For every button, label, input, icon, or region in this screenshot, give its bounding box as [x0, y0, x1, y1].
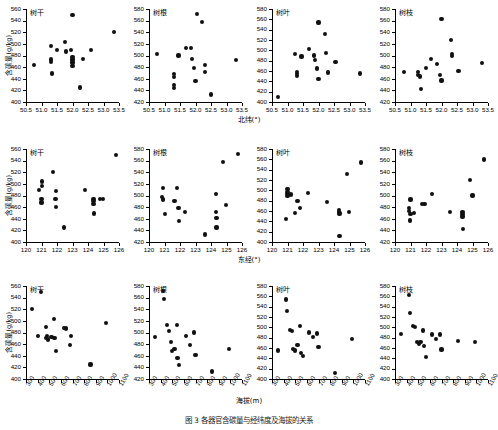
- data-point: [413, 325, 417, 329]
- data-point: [70, 13, 74, 17]
- y-tick: [269, 338, 272, 339]
- data-point: [101, 197, 105, 201]
- data-point: [313, 58, 317, 62]
- data-point: [172, 86, 176, 90]
- x-tick-label: 300: [25, 375, 36, 387]
- y-tick: [23, 161, 26, 162]
- data-point: [161, 198, 165, 202]
- y-tick-label: 440: [246, 78, 267, 84]
- data-point: [358, 71, 362, 75]
- data-point: [337, 234, 341, 238]
- y-axis-line: [149, 9, 150, 102]
- y-tick-label: 480: [246, 57, 267, 63]
- x-tick-label: 700: [318, 375, 329, 387]
- data-point: [324, 51, 328, 55]
- y-tick-label: 560: [0, 283, 21, 289]
- y-tick-label: 580: [369, 6, 390, 12]
- y-tick-label: 520: [369, 41, 390, 47]
- y-tick: [146, 219, 149, 220]
- x-tick-label: 800: [329, 375, 340, 387]
- y-tick: [146, 309, 149, 310]
- x-tick-label: 800: [83, 375, 94, 387]
- y-tick: [269, 40, 272, 41]
- data-point: [192, 330, 196, 334]
- y-tick: [146, 90, 149, 91]
- panel-title: 树枝: [399, 10, 413, 17]
- y-tick-label: 440: [123, 227, 144, 233]
- data-point: [193, 353, 197, 357]
- data-point: [439, 78, 443, 82]
- y-tick-label: 500: [123, 52, 144, 58]
- y-tick-label: 560: [246, 16, 267, 22]
- data-point: [92, 211, 96, 215]
- y-axis-line: [149, 286, 150, 379]
- y-tick: [392, 338, 395, 339]
- y-axis-line: [26, 286, 27, 379]
- x-tick-label: 600: [183, 375, 194, 387]
- data-point: [64, 49, 68, 53]
- data-point: [104, 321, 108, 325]
- y-axis-title: 含碳量(g/kg): [6, 27, 13, 83]
- y-tick: [392, 184, 395, 185]
- y-tick-label: 560: [123, 157, 144, 163]
- data-point: [32, 63, 36, 67]
- y-tick-label: 540: [369, 169, 390, 175]
- y-tick: [392, 230, 395, 231]
- chart-row-latitude: 40042044046048050052054056050.551.051.55…: [0, 0, 498, 133]
- data-point: [337, 211, 341, 215]
- y-tick-label: 400: [0, 99, 21, 105]
- data-point: [54, 205, 58, 209]
- x-tick-label: 800: [206, 375, 217, 387]
- x-tick-label: 500: [171, 375, 182, 387]
- y-tick: [392, 90, 395, 91]
- y-tick: [146, 21, 149, 22]
- y-tick: [269, 180, 272, 181]
- data-point: [439, 17, 443, 21]
- data-point: [422, 202, 426, 206]
- y-tick: [269, 286, 272, 287]
- panel-latitude-root: 42044046048050052054056058050.551.051.55…: [123, 0, 248, 133]
- y-tick-label: 580: [246, 283, 267, 289]
- x-tick-label: 600: [429, 375, 440, 387]
- y-tick: [23, 356, 26, 357]
- data-point: [345, 172, 349, 176]
- y-tick: [146, 207, 149, 208]
- panel-title: 树叶: [276, 287, 290, 294]
- y-tick: [146, 79, 149, 80]
- data-point: [50, 71, 54, 75]
- data-point: [214, 225, 218, 229]
- y-tick-label: 420: [369, 239, 390, 245]
- data-point: [89, 48, 93, 52]
- y-tick-label: 460: [246, 345, 267, 351]
- y-tick-label: 540: [246, 26, 267, 32]
- data-point: [176, 53, 180, 57]
- data-point: [88, 362, 92, 366]
- y-tick: [392, 44, 395, 45]
- data-point: [456, 339, 460, 343]
- y-tick: [269, 170, 272, 171]
- x-tick-label: 1100: [487, 372, 498, 387]
- panel-longitude-leaf: 4004204404604805005205405605801201211221…: [246, 140, 371, 273]
- data-point: [407, 293, 411, 297]
- y-tick-label: 580: [246, 146, 267, 152]
- y-tick: [23, 207, 26, 208]
- data-point: [52, 317, 56, 321]
- data-point: [482, 157, 486, 161]
- x-tick-label: 600: [60, 375, 71, 387]
- x-tick-label: 500: [417, 375, 428, 387]
- y-tick-label: 540: [0, 157, 21, 163]
- y-tick-label: 440: [123, 364, 144, 370]
- y-tick-label: 400: [246, 239, 267, 245]
- y-tick-label: 580: [369, 283, 390, 289]
- x-axis-title: 海拔(m): [0, 398, 498, 405]
- y-tick: [146, 230, 149, 231]
- data-point: [214, 216, 218, 220]
- y-tick-label: 460: [369, 76, 390, 82]
- y-tick-label: 420: [123, 376, 144, 382]
- y-tick-label: 440: [369, 227, 390, 233]
- x-tick-label: 300: [148, 375, 159, 387]
- y-tick: [23, 344, 26, 345]
- data-point: [350, 337, 354, 341]
- panel-longitude-trunk: 4004204404604805005205405601201211221231…: [0, 140, 125, 273]
- y-tick-label: 500: [123, 329, 144, 335]
